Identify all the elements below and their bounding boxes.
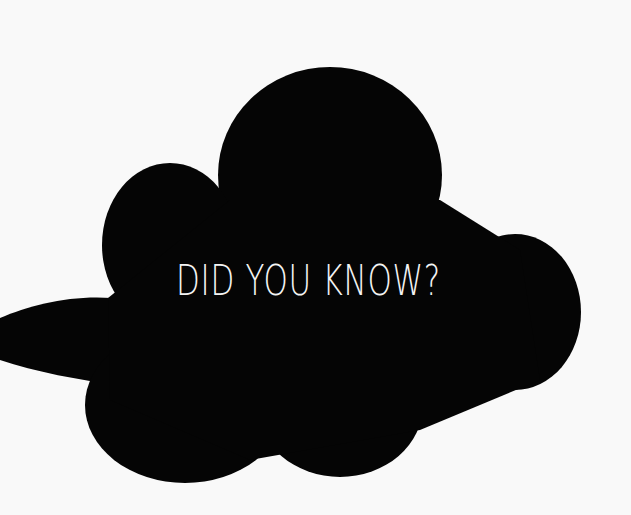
bubble-text: DID YOU KNOW?	[176, 252, 392, 308]
